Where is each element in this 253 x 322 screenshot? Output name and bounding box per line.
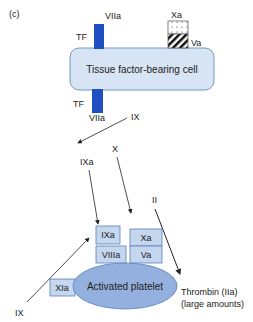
ixa-label: IXa xyxy=(80,157,94,167)
ii-label: II xyxy=(152,195,157,205)
ix-top-label: IX xyxy=(131,112,140,122)
viiia-box-label: VIIIa xyxy=(102,250,121,260)
tissue-cell-label: Tissue factor-bearing cell xyxy=(86,64,197,75)
ixa-to-platelet-arrow xyxy=(89,170,98,224)
xa-box-label: Xa xyxy=(140,233,151,243)
xa-label: Xa xyxy=(171,10,182,20)
va-box-label: Va xyxy=(141,250,151,260)
coagulation-diagram: (c) Tissue factor-bearing cell VIIa TF T… xyxy=(0,0,253,322)
viia-top-label: VIIa xyxy=(105,11,121,21)
tf-receptor-top xyxy=(94,24,104,49)
xia-box-label: XIa xyxy=(55,283,69,293)
va-label: Va xyxy=(191,38,201,48)
tf-bottom-label: TF xyxy=(73,99,84,109)
viia-bottom-label: VIIa xyxy=(89,113,105,123)
thrombin-label: Thrombin (IIa) xyxy=(181,287,238,297)
ix-bottom-label: IX xyxy=(15,308,24,318)
panel-label: (c) xyxy=(9,9,20,19)
va-complex-box xyxy=(168,34,188,48)
tf-receptor-bottom xyxy=(92,89,103,113)
ixa-box-label: IXa xyxy=(101,230,115,240)
x-label: X xyxy=(112,144,118,154)
xa-complex-box xyxy=(168,21,188,34)
x-to-platelet-arrow xyxy=(117,157,131,213)
tf-top-label: TF xyxy=(76,32,87,42)
activated-platelet-label: Activated platelet xyxy=(87,281,163,292)
thrombin-amount-label: (large amounts) xyxy=(181,299,244,309)
